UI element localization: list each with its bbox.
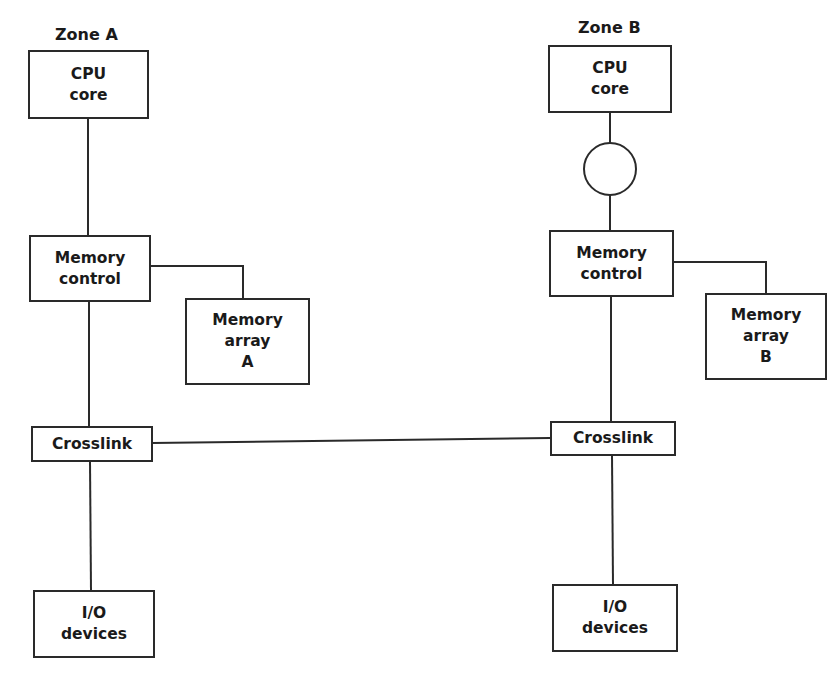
label-line: Crosslink <box>573 428 653 449</box>
label-line: devices <box>582 618 648 639</box>
label-line: control <box>581 264 643 285</box>
label-line: A <box>242 352 254 373</box>
memctl-b-to-array-b-line <box>673 262 766 293</box>
crosslink-b-box: Crosslink <box>550 421 676 456</box>
label-line: core <box>591 79 629 100</box>
crosslink-b-to-io-b-line <box>612 455 613 584</box>
crosslink-a-to-io-a-line <box>90 461 91 590</box>
label-line: core <box>70 85 108 106</box>
memctl-a-to-array-a-line <box>150 266 243 298</box>
label-line: B <box>760 347 772 368</box>
label-line: control <box>59 269 121 290</box>
label-line: I/O <box>82 603 107 624</box>
memory-control-b-box: Memory control <box>549 230 674 297</box>
label-line: array <box>225 331 271 352</box>
crosslink-a-box: Crosslink <box>31 426 153 462</box>
label-line: Memory <box>55 248 125 269</box>
label-line: array <box>743 326 789 347</box>
crosslink-bridge-line <box>152 438 550 443</box>
label-line: Crosslink <box>52 434 132 455</box>
label-line: CPU <box>71 64 106 85</box>
label-line: Memory <box>731 305 801 326</box>
memory-array-b-box: Memory array B <box>705 293 827 380</box>
cpu-core-a-box: CPU core <box>28 50 149 119</box>
label-line: CPU <box>592 58 627 79</box>
zone-b-label: Zone B <box>578 18 641 37</box>
cpu-core-b-box: CPU core <box>548 45 672 113</box>
label-line: Memory <box>212 310 282 331</box>
memory-array-a-box: Memory array A <box>185 298 310 385</box>
zone-a-label: Zone A <box>55 25 118 44</box>
label-line: devices <box>61 624 127 645</box>
circle-node-icon <box>584 143 636 195</box>
label-line: Memory <box>576 243 646 264</box>
label-line: I/O <box>603 597 628 618</box>
memory-control-a-box: Memory control <box>29 235 151 302</box>
io-devices-b-box: I/O devices <box>552 584 678 652</box>
io-devices-a-box: I/O devices <box>33 590 155 658</box>
